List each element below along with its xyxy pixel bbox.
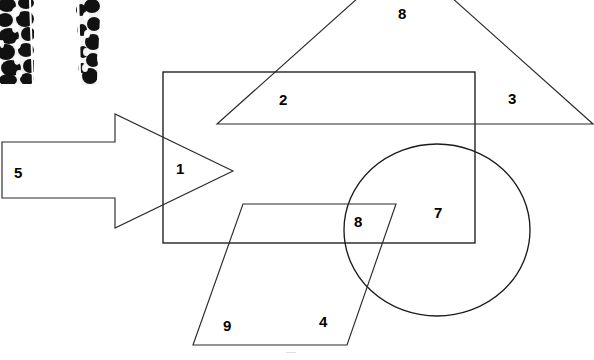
scan-artifact — [286, 352, 296, 353]
shape-arrow — [2, 114, 233, 228]
region-label-7: 7 — [434, 205, 442, 220]
texture-strip-right — [74, 0, 104, 85]
region-label-2: 2 — [279, 92, 287, 107]
region-label-4: 4 — [319, 314, 327, 329]
figure-canvas: 1 2 3 4 5 7 8 8 9 — [0, 0, 594, 360]
region-label-8-circle: 8 — [354, 214, 362, 229]
region-label-3: 3 — [508, 91, 516, 106]
region-label-5: 5 — [14, 165, 22, 180]
region-label-8-top: 8 — [398, 6, 406, 21]
shape-circle — [344, 144, 530, 316]
shape-rectangle — [163, 72, 475, 243]
texture-strip-left — [0, 0, 34, 84]
region-label-9: 9 — [223, 318, 231, 333]
region-label-1: 1 — [176, 161, 184, 176]
